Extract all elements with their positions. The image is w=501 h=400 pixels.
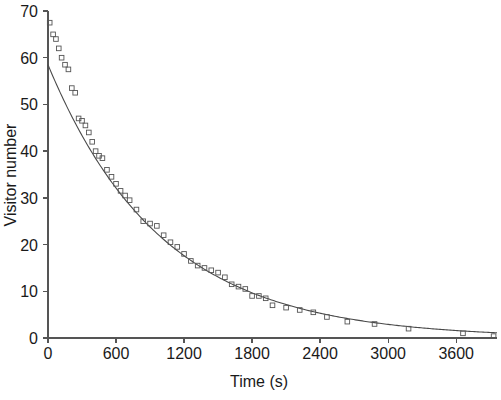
x-axis-tick-labels: 060012001800240030003600	[44, 345, 475, 362]
exponential-fit-curve	[48, 65, 497, 333]
y-tick-label: 40	[20, 143, 38, 160]
data-point-marker	[51, 32, 56, 37]
data-point-marker	[223, 275, 228, 280]
axis-lines	[48, 11, 497, 338]
data-point-marker	[54, 37, 59, 42]
x-tick-label: 0	[44, 345, 53, 362]
x-axis-title: Time (s)	[230, 373, 288, 390]
data-point-marker	[109, 175, 114, 180]
data-point-marker	[70, 86, 75, 91]
chart-figure: 060012001800240030003600 010203040506070…	[0, 0, 501, 400]
x-tick-label: 3000	[370, 345, 406, 362]
data-point-marker	[66, 67, 71, 72]
y-tick-label: 70	[20, 3, 38, 20]
x-tick-label: 3600	[438, 345, 474, 362]
y-tick-label: 0	[29, 330, 38, 347]
data-point-marker	[93, 149, 98, 154]
data-point-marker	[127, 198, 132, 203]
data-point-marker	[56, 46, 61, 51]
plot-axes	[43, 11, 497, 343]
y-tick-label: 20	[20, 237, 38, 254]
data-point-marker	[59, 55, 64, 60]
data-point-marker	[63, 62, 68, 67]
data-point-marker	[83, 123, 88, 128]
data-point-marker	[216, 270, 221, 275]
data-point-markers	[47, 20, 496, 338]
data-point-marker	[155, 224, 160, 229]
y-axis-ticks	[43, 11, 48, 338]
x-axis-ticks	[48, 338, 456, 343]
data-point-marker	[161, 233, 166, 238]
data-point-marker	[345, 319, 350, 324]
data-point-marker	[270, 303, 275, 308]
data-point-marker	[250, 294, 255, 299]
visitor-decay-scatter-plot: 060012001800240030003600 010203040506070…	[0, 0, 501, 400]
data-point-marker	[175, 245, 180, 250]
y-tick-label: 50	[20, 96, 38, 113]
data-point-marker	[461, 331, 466, 336]
x-tick-label: 600	[103, 345, 130, 362]
data-point-marker	[73, 90, 78, 95]
x-tick-label: 2400	[302, 345, 338, 362]
y-tick-label: 60	[20, 50, 38, 67]
data-point-marker	[105, 168, 110, 173]
x-tick-label: 1200	[166, 345, 202, 362]
y-tick-label: 10	[20, 283, 38, 300]
data-point-marker	[87, 130, 92, 135]
x-tick-label: 1800	[234, 345, 270, 362]
data-point-marker	[284, 305, 289, 310]
y-tick-label: 30	[20, 190, 38, 207]
y-axis-tick-labels: 010203040506070	[20, 3, 38, 347]
data-point-marker	[90, 140, 95, 145]
y-axis-title: Visitor number	[2, 123, 19, 227]
